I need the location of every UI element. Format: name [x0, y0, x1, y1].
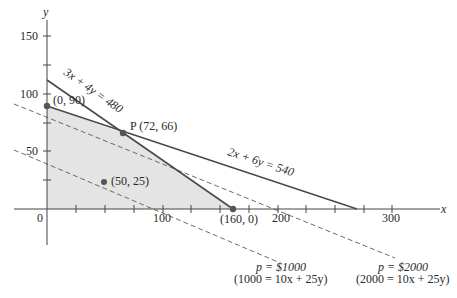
- x-tick-label-100: 100: [153, 211, 171, 225]
- isoprofit-equation-1000: (1000 = 10x + 25y): [234, 272, 328, 286]
- point-label-0-90: (0, 90): [53, 93, 85, 107]
- point-label-P: P (72, 66): [130, 119, 177, 133]
- point-50-25: [101, 179, 107, 185]
- point-P: [120, 130, 126, 136]
- constraint-label-2x6y: 2x + 6y = 540: [226, 145, 296, 180]
- point-0-90: [44, 103, 50, 109]
- x-axis-label: x: [440, 202, 447, 216]
- lp-diagram: y x 0 100 200 300 50 100 150 (0, 90) P (…: [0, 0, 457, 298]
- point-label-50-25: (50, 25): [111, 174, 149, 188]
- y-axis-label: y: [42, 5, 49, 19]
- y-tick-label-50: 50: [26, 144, 38, 158]
- point-label-160-0: (160, 0): [220, 212, 258, 226]
- x-tick-label-300: 300: [382, 211, 400, 225]
- y-tick-label-100: 100: [20, 87, 38, 101]
- x-tick-label-0: 0: [37, 211, 43, 225]
- x-tick-label-200: 200: [272, 211, 290, 225]
- constraint-label-3x4y: 3x + 4y = 480: [60, 64, 125, 116]
- y-tick-label-150: 150: [20, 29, 38, 43]
- isoprofit-equation-2000: (2000 = 10x + 25y): [356, 272, 450, 286]
